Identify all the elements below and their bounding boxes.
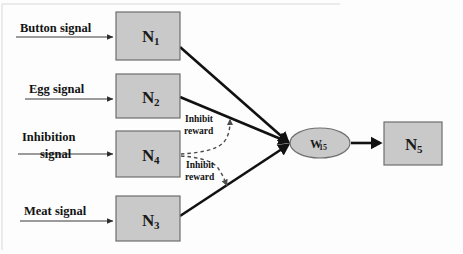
node-box-n2[interactable]: N 2 — [116, 74, 180, 118]
node-sub-n5: 5 — [417, 143, 423, 155]
signal-label-inhibition-line2: signal — [40, 147, 72, 161]
inhibit-upper-line2: reward — [184, 126, 214, 136]
signal-label-meat: Meat signal — [24, 204, 87, 218]
weight-sub-w15: 15 — [319, 143, 327, 152]
node-box-n4[interactable]: N 4 — [116, 131, 180, 177]
node-box-n5[interactable]: N 5 — [384, 122, 442, 165]
inhibit-upper-line1: Inhibit — [185, 114, 214, 124]
node-box-n3[interactable]: N 3 — [116, 196, 180, 241]
node-sub-n4: 4 — [154, 154, 160, 166]
diagram-canvas: N 1 N 2 N 4 N 3 W 15 — [0, 0, 463, 254]
inhibit-curve-upper — [181, 119, 230, 154]
weight-node-w15[interactable]: W 15 — [290, 128, 350, 158]
signal-label-button: Button signal — [20, 21, 92, 35]
node-sub-n3: 3 — [154, 219, 160, 231]
signal-label-inhibition-line1: Inhibition — [22, 130, 76, 144]
node-sub-n1: 1 — [154, 35, 160, 47]
signal-label-egg: Egg signal — [29, 82, 85, 96]
neural-network-diagram: N 1 N 2 N 4 N 3 W 15 — [0, 0, 463, 254]
node-box-n1[interactable]: N 1 — [116, 12, 180, 60]
inhibit-lower-line2: reward — [185, 172, 215, 182]
inhibit-lower-line1: Inhibit — [186, 160, 215, 170]
node-sub-n2: 2 — [154, 96, 160, 108]
